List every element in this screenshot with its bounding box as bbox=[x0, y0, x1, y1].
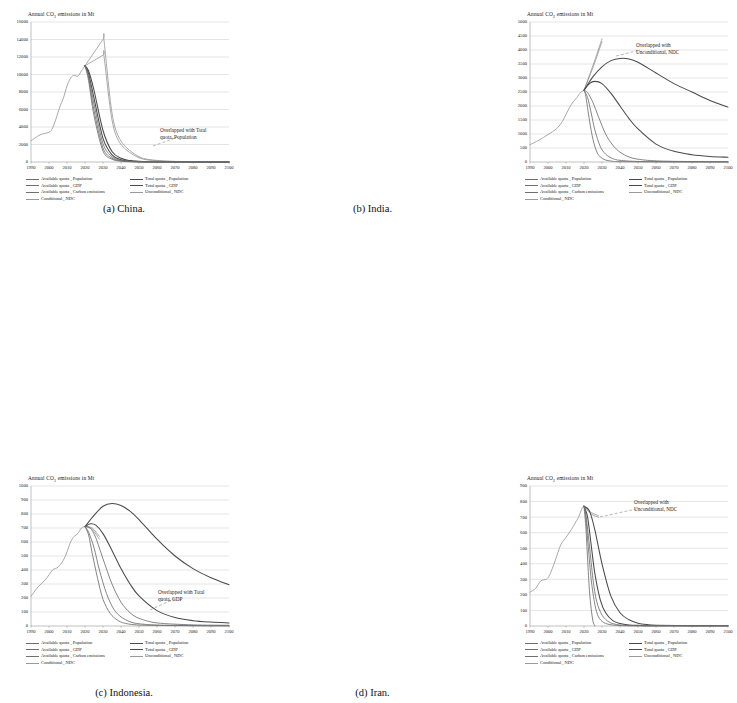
legend-entry-available-carbon[interactable]: Available quota , Carbon emissions bbox=[26, 189, 130, 196]
legend-entry-total-gdp[interactable]: Total quota , GDP bbox=[629, 183, 677, 190]
legend-entry-available-gdp[interactable]: Available quota , GDP bbox=[525, 183, 629, 190]
legend-label: Total quota , Population bbox=[145, 640, 188, 647]
legend-line-swatch-icon bbox=[130, 656, 143, 657]
series-line bbox=[85, 66, 229, 162]
legend-label: Available quota , Population bbox=[540, 640, 591, 647]
legend-entry-total-population[interactable]: Total quota , Population bbox=[629, 176, 687, 183]
legend-entry-available-carbon[interactable]: Available quota , Carbon emissions bbox=[26, 653, 130, 660]
legend-entry-total-population[interactable]: Total quota , Population bbox=[130, 176, 188, 183]
legend-entry-total-population[interactable]: Total quota , Population bbox=[629, 640, 687, 647]
legend-line-swatch-icon bbox=[130, 192, 143, 193]
legend-label: Total quota , GDP bbox=[644, 647, 677, 654]
series-line bbox=[584, 39, 602, 91]
legend-entry-unconditional-ndc[interactable]: Unconditional , NDC bbox=[130, 653, 184, 660]
x-tick-label: 2080 bbox=[684, 165, 700, 170]
overlap-annotation-line2: quota, GDP bbox=[158, 596, 205, 603]
x-tick-label: 1990 bbox=[522, 629, 538, 634]
legend-entry-available-gdp[interactable]: Available quota , GDP bbox=[26, 647, 130, 654]
legend-line-swatch-icon bbox=[629, 656, 642, 657]
legend-entry-total-gdp[interactable]: Total quota , GDP bbox=[130, 183, 178, 190]
chart-legend: Available quota , PopulationTotal quota … bbox=[26, 176, 232, 202]
y-tick-label: 100 bbox=[5, 609, 28, 614]
overlap-annotation-line1: Overlapped with Total bbox=[160, 127, 207, 134]
overlap-annotation-line1: Overlapped with bbox=[636, 42, 679, 49]
x-tick-label: 2030 bbox=[95, 165, 111, 170]
y-tick-label: 700 bbox=[5, 525, 28, 530]
series-line bbox=[584, 506, 728, 626]
legend-entry-total-population[interactable]: Total quota , Population bbox=[130, 640, 188, 647]
x-tick-label: 2100 bbox=[221, 165, 237, 170]
legend-row: Available quota , Carbon emissionsUncond… bbox=[525, 189, 731, 196]
legend-row: Available quota , PopulationTotal quota … bbox=[26, 176, 232, 183]
legend-label: Unconditional , NDC bbox=[644, 653, 683, 660]
y-tick-label: 2500 bbox=[504, 89, 527, 94]
overlap-annotation-line2: Unconditional, NDC bbox=[636, 49, 679, 56]
overlap-annotation: Overlapped with Totalquota, GDP bbox=[158, 589, 205, 603]
series-line bbox=[85, 50, 229, 161]
legend-line-swatch-icon bbox=[525, 656, 538, 657]
legend-entry-available-carbon[interactable]: Available quota , Carbon emissions bbox=[525, 653, 629, 660]
series-line bbox=[584, 506, 728, 626]
y-tick-label: 12000 bbox=[5, 54, 28, 59]
legend-line-swatch-icon bbox=[525, 185, 538, 186]
series-line bbox=[584, 90, 728, 162]
panel-cell-iran: Annual CO2 emissions in Mt01002003004005… bbox=[248, 232, 497, 488]
y-tick-label: 800 bbox=[5, 511, 28, 516]
x-tick-label: 2030 bbox=[594, 629, 610, 634]
x-tick-label: 1990 bbox=[23, 165, 39, 170]
y-tick-label: 2000 bbox=[5, 142, 28, 147]
legend-entry-conditional-ndc[interactable]: Conditional , NDC bbox=[525, 660, 629, 667]
legend-label: Unconditional , NDC bbox=[145, 653, 184, 660]
x-tick-label: 2050 bbox=[131, 165, 147, 170]
legend-entry-available-population[interactable]: Available quota , Population bbox=[525, 176, 629, 183]
legend-entry-total-gdp[interactable]: Total quota , GDP bbox=[629, 647, 677, 654]
legend-line-swatch-icon bbox=[629, 185, 642, 186]
legend-entry-unconditional-ndc[interactable]: Unconditional , NDC bbox=[629, 189, 683, 196]
legend-entry-conditional-ndc[interactable]: Conditional , NDC bbox=[26, 660, 130, 667]
overlap-annotation-line1: Overlapped with Total bbox=[158, 589, 205, 596]
series-line bbox=[85, 527, 229, 626]
y-tick-label: 14000 bbox=[5, 37, 28, 42]
legend-label: Available quota , Carbon emissions bbox=[41, 189, 105, 196]
legend-line-swatch-icon bbox=[26, 179, 39, 180]
y-tick-label: 4000 bbox=[5, 124, 28, 129]
series-line bbox=[584, 506, 728, 626]
legend-label: Total quota , Population bbox=[145, 176, 188, 183]
legend-entry-available-gdp[interactable]: Available quota , GDP bbox=[525, 647, 629, 654]
series-line bbox=[85, 66, 229, 162]
legend-entry-available-population[interactable]: Available quota , Population bbox=[525, 640, 629, 647]
x-tick-label: 2080 bbox=[185, 629, 201, 634]
legend-entry-total-gdp[interactable]: Total quota , GDP bbox=[130, 647, 178, 654]
axis-title: Annual CO2 emissions in Mt bbox=[28, 11, 94, 19]
legend-entry-unconditional-ndc[interactable]: Unconditional , NDC bbox=[629, 653, 683, 660]
y-tick-label: 8000 bbox=[5, 89, 28, 94]
legend-entry-available-population[interactable]: Available quota , Population bbox=[26, 176, 130, 183]
panel-caption-india: (b) India. bbox=[248, 203, 497, 214]
x-tick-label: 2010 bbox=[59, 629, 75, 634]
x-tick-label: 2010 bbox=[558, 165, 574, 170]
axis-title-suffix: emissions in Mt bbox=[56, 475, 94, 481]
x-tick-label: 2070 bbox=[167, 629, 183, 634]
legend-row: Available quota , GDPTotal quota , GDP bbox=[26, 647, 232, 654]
x-tick-label: 2080 bbox=[684, 629, 700, 634]
x-tick-label: 2090 bbox=[702, 629, 718, 634]
series-line bbox=[85, 524, 229, 623]
y-tick-label: 400 bbox=[504, 561, 527, 566]
y-tick-label: 6000 bbox=[5, 107, 28, 112]
x-tick-label: 2020 bbox=[77, 165, 93, 170]
legend-entry-conditional-ndc[interactable]: Conditional , NDC bbox=[525, 196, 629, 203]
legend-entry-available-population[interactable]: Available quota , Population bbox=[26, 640, 130, 647]
series-line bbox=[584, 506, 595, 626]
legend-label: Unconditional , NDC bbox=[644, 189, 683, 196]
legend-entry-conditional-ndc[interactable]: Conditional , NDC bbox=[26, 196, 130, 203]
legend-entry-unconditional-ndc[interactable]: Unconditional , NDC bbox=[130, 189, 184, 196]
legend-entry-available-gdp[interactable]: Available quota , GDP bbox=[26, 183, 130, 190]
x-tick-label: 2090 bbox=[203, 165, 219, 170]
chart-panel-iran: Annual CO2 emissions in Mt01002003004005… bbox=[248, 232, 497, 488]
series-line bbox=[584, 42, 602, 91]
legend-entry-available-carbon[interactable]: Available quota , Carbon emissions bbox=[525, 189, 629, 196]
legend-line-swatch-icon bbox=[130, 643, 143, 644]
series-line bbox=[584, 81, 728, 157]
overlap-annotation-line1: Overlapped with bbox=[634, 499, 677, 506]
